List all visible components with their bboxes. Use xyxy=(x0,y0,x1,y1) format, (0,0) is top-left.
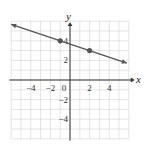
y-tick-label: −2 xyxy=(58,95,68,105)
x-axis-label: x xyxy=(135,73,141,85)
x-tick-label: 0 xyxy=(62,83,67,93)
axes xyxy=(9,22,134,141)
y-tick-label: −4 xyxy=(58,114,68,124)
x-tick-label: −4 xyxy=(26,83,36,93)
data-point xyxy=(87,48,92,53)
x-tick-label: −2 xyxy=(46,83,56,93)
x-tick-label: 4 xyxy=(107,83,112,93)
data-point xyxy=(58,38,63,43)
line-arrow-icon xyxy=(121,59,127,64)
y-tick-label: 4 xyxy=(64,36,69,46)
x-axis-arrow-icon xyxy=(131,78,135,83)
line-arrow-icon xyxy=(11,24,17,29)
x-tick-label: 2 xyxy=(87,83,92,93)
y-axis-label: y xyxy=(65,10,71,22)
coordinate-plane: −4−202442−2−4 x y xyxy=(0,0,147,145)
y-axis-arrow-icon xyxy=(68,22,73,26)
y-tick-label: 2 xyxy=(64,55,69,65)
